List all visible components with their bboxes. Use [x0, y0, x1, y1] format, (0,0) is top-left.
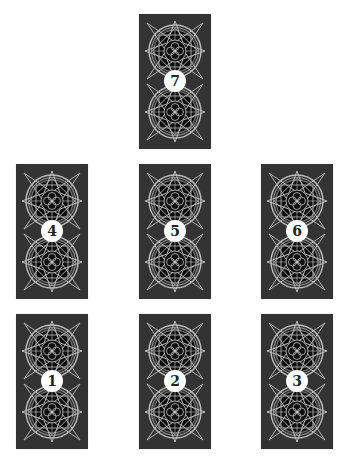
position-number-badge: 5 [164, 220, 186, 242]
card-position-7[interactable]: 7 [139, 14, 211, 149]
card-position-3[interactable]: 3 [261, 314, 333, 449]
card-position-4[interactable]: 4 [16, 164, 88, 299]
position-number-badge: 7 [164, 70, 186, 92]
card-position-6[interactable]: 6 [261, 164, 333, 299]
position-number-badge: 3 [286, 370, 308, 392]
card-position-5[interactable]: 5 [139, 164, 211, 299]
position-number-badge: 1 [41, 370, 63, 392]
card-position-1[interactable]: 1 [16, 314, 88, 449]
position-number-badge: 4 [41, 220, 63, 242]
card-position-2[interactable]: 2 [139, 314, 211, 449]
position-number-badge: 2 [164, 370, 186, 392]
position-number-badge: 6 [286, 220, 308, 242]
